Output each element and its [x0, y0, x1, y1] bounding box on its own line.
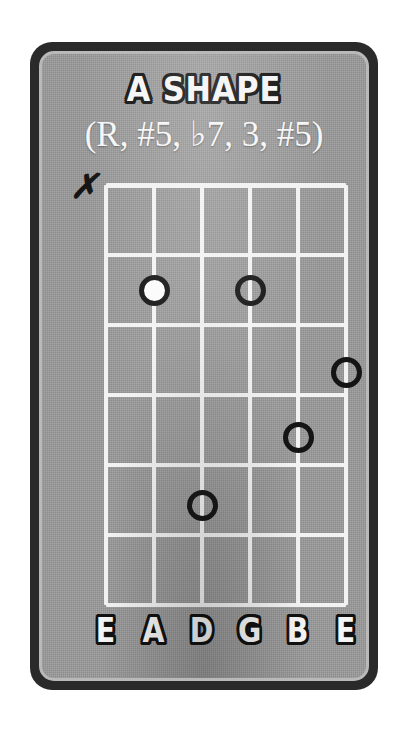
string-line-1-E — [104, 185, 108, 605]
fret-line-2 — [106, 323, 346, 327]
finger-dot-string2-fret2-root — [139, 275, 170, 306]
muted-string-x-icon: ✗ — [70, 172, 96, 202]
string-line-4-G — [248, 185, 252, 605]
chord-diagram-card: A SHAPE (R, #5, ♭7, 3, #5) ✗ EADGBE — [30, 42, 378, 690]
string-line-2-A — [152, 185, 156, 605]
fret-line-6 — [106, 603, 346, 607]
fret-line-5 — [106, 533, 346, 537]
chord-card-inner: A SHAPE (R, #5, ♭7, 3, #5) ✗ EADGBE — [39, 51, 369, 681]
chord-intervals-label: (R, #5, ♭7, 3, #5) — [42, 114, 366, 156]
string-label-2: A — [134, 610, 174, 652]
fret-line-4 — [106, 463, 346, 467]
finger-dot-string6-fret3 — [331, 357, 362, 388]
fret-line-0 — [106, 183, 346, 188]
string-label-1: E — [86, 610, 126, 652]
string-line-3-D — [200, 185, 204, 605]
chord-shape-title: A SHAPE — [55, 72, 353, 108]
string-label-5: B — [278, 610, 318, 652]
string-name-row: EADGBE — [106, 610, 346, 656]
string-label-6: E — [326, 610, 366, 652]
string-line-6-E — [344, 185, 348, 605]
finger-dot-string3-fret5 — [187, 490, 218, 521]
finger-dot-string4-fret2 — [235, 275, 266, 306]
fretboard-grid — [106, 185, 346, 605]
fret-line-1 — [106, 253, 346, 257]
string-label-3: D — [182, 610, 222, 652]
string-line-5-B — [296, 185, 300, 605]
fret-line-3 — [106, 393, 346, 397]
finger-dot-string5-fret4 — [283, 422, 314, 453]
string-label-4: G — [230, 610, 270, 652]
